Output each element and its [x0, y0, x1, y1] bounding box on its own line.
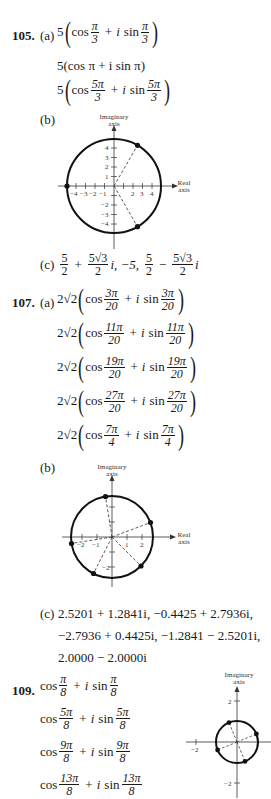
svg-text:2: 2 [131, 190, 135, 198]
part-c-line-2: −2.7936 + 0.4425i, −1.2841 − 2.5201i, [58, 628, 260, 644]
svg-text:−2: −2 [89, 190, 97, 198]
part-c-label-107: (c) [40, 606, 54, 622]
problem-number-105: 105. [12, 28, 35, 44]
problem-number-109: 109. [12, 683, 35, 699]
point-3 [135, 224, 140, 229]
coef: 5 [57, 24, 64, 40]
part-c-line-1: 2.5201 + 1.2841i, −0.4425 + 2.7936i, [58, 606, 253, 622]
complex-plane-graph-105: −4−3−2−1 234 4321 −2−3−4 [50, 125, 180, 255]
svg-text:1: 1 [105, 173, 109, 181]
svg-text:2: 2 [228, 698, 232, 706]
svg-text:−1: −1 [92, 541, 100, 549]
svg-text:2: 2 [140, 541, 144, 549]
svg-text:−3: −3 [80, 190, 88, 198]
expr-109-3: cos9π8 +isin 9π8 [40, 739, 132, 764]
svg-text:4: 4 [105, 144, 109, 152]
svg-text:−3: −3 [101, 211, 109, 219]
expr-107-a5: 2√2(cos 7π4 +isin 7π4) [57, 421, 185, 449]
svg-text:3: 3 [105, 154, 109, 162]
expr-105-c: (c) 52 + 5√32 i, −5, 52 − 5√32 i [40, 252, 199, 277]
expr-107-a2: 2√2(cos 11π20 +isin 11π20) [57, 319, 195, 347]
expr-107-a3: 2√2(cos 19π20 +isin 19π20) [57, 353, 197, 381]
svg-text:−4: −4 [101, 220, 109, 228]
complex-plane-graph-109: −22−2 [184, 686, 271, 799]
problem-number-107: 107. [12, 295, 35, 311]
expr-109-2: cos5π8 +isin 5π8 [40, 706, 132, 731]
expr-107-a1: 2√2(cos 3π20 +isin 3π20) [57, 285, 185, 313]
svg-text:3: 3 [140, 190, 144, 198]
expr-105-a3: 5( cos 5π3 +i sin 5π3) [57, 76, 171, 104]
svg-text:−2: −2 [101, 201, 109, 209]
svg-text:−1: −1 [99, 190, 107, 198]
expr-105-a2: 5(cos π + i sin π) [57, 58, 145, 74]
expr-107-a4: 2√2(cos 27π20 +isin 27π20) [57, 387, 197, 415]
svg-text:−2: −2 [102, 564, 110, 572]
svg-text:−2: −2 [191, 746, 199, 754]
part-b-label-107: (b) [40, 460, 55, 476]
expr-109-1: cosπ8 +isin π8 [40, 673, 120, 698]
svg-text:2: 2 [105, 163, 109, 171]
expr-109-4: cos13π8 +isin 13π8 [40, 772, 144, 797]
part-c-line-3: 2.0000 − 2.0000i [58, 650, 147, 666]
svg-text:−2: −2 [224, 780, 232, 788]
svg-text:1: 1 [125, 541, 129, 549]
complex-plane-graph-107: −2−112 −2 [60, 475, 178, 587]
point-1 [135, 143, 140, 148]
part-a-label-105: (a) [40, 28, 54, 44]
part-a-label-107: (a) [40, 295, 54, 311]
imaginary-axis-label-109: Imaginaryaxis [219, 672, 259, 686]
expr-105-a1: 5( cos π3 +i sin π3) [57, 18, 159, 46]
svg-text:−4: −4 [70, 190, 78, 198]
point-2 [64, 183, 69, 188]
svg-text:4: 4 [150, 190, 154, 198]
